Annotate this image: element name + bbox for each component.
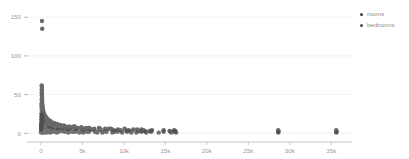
data-point: [100, 130, 104, 134]
data-point: [95, 130, 99, 134]
y-tick-label: 50: [14, 91, 21, 98]
data-point: [110, 130, 114, 134]
data-point: [125, 130, 129, 134]
legend-marker-rooms: [360, 13, 363, 16]
legend-label-bedrooms: bedrooms: [367, 22, 395, 28]
data-point: [129, 130, 133, 134]
data-point: [144, 130, 148, 134]
x-tick-label: 10k: [119, 147, 130, 154]
data-point: [40, 19, 44, 23]
legend-item-bedrooms[interactable]: bedrooms: [360, 20, 409, 31]
data-point: [174, 130, 178, 134]
data-point: [149, 130, 153, 134]
data-point: [40, 27, 44, 31]
data-point: [276, 130, 280, 134]
legend-label-rooms: rooms: [367, 11, 384, 17]
legend-item-rooms[interactable]: rooms: [360, 9, 409, 20]
series-bedrooms: [39, 113, 339, 135]
y-tick-label: 150: [11, 13, 22, 20]
data-point: [55, 130, 59, 134]
data-point: [70, 130, 74, 134]
plot-area: 05010015005k10k15k20k25k30k35k: [0, 0, 409, 159]
data-point: [334, 130, 338, 134]
x-tick-label: 30k: [285, 147, 296, 154]
data-point: [120, 130, 124, 134]
x-tick-label: 20k: [202, 147, 213, 154]
data-point: [161, 130, 165, 134]
data-point: [66, 130, 70, 134]
y-tick-label: 0: [18, 130, 22, 137]
data-point: [169, 130, 173, 134]
data-point: [86, 126, 90, 130]
data-point: [139, 130, 143, 134]
x-tick-label: 0: [39, 147, 43, 154]
data-point: [48, 130, 52, 134]
y-tick-label: 100: [11, 52, 22, 59]
x-tick-label: 35k: [326, 147, 337, 154]
x-tick-label: 5k: [79, 147, 86, 154]
x-tick-label: 25k: [243, 147, 254, 154]
scatter-chart: 05010015005k10k15k20k25k30k35k rooms bed…: [0, 0, 409, 159]
data-point: [81, 130, 85, 134]
data-point: [85, 130, 89, 134]
data-point: [77, 130, 81, 134]
data-point: [39, 102, 43, 106]
data-point: [157, 130, 161, 134]
data-point: [134, 130, 138, 134]
series-rooms: [39, 19, 339, 134]
x-tick-label: 15k: [160, 147, 171, 154]
legend-marker-bedrooms: [360, 24, 363, 27]
chart-legend: rooms bedrooms: [360, 9, 409, 31]
